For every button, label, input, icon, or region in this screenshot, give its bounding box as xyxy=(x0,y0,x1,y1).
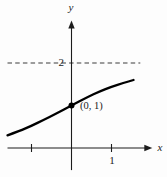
graph-figure: y x 2 1 (0, 1) xyxy=(0,0,167,177)
y-axis-label: y xyxy=(64,1,78,13)
point-label: (0, 1) xyxy=(80,100,103,112)
y-axis-arrowhead xyxy=(68,21,74,29)
x-axis-label: x xyxy=(154,141,166,153)
asymptote-value-label: 2 xyxy=(48,56,64,68)
x-tick-label-1: 1 xyxy=(105,154,119,166)
point-dot xyxy=(69,103,75,109)
x-axis-arrowhead xyxy=(144,145,152,151)
plot-svg xyxy=(0,0,167,177)
